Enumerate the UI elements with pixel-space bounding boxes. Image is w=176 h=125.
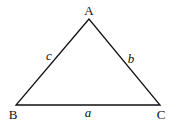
side-label-c: c [46,49,52,62]
vertex-label-a: A [84,4,93,17]
vertex-label-c: C [157,108,166,121]
triangle-abc [16,19,160,105]
side-label-a: a [85,106,92,119]
side-label-b: b [128,52,135,65]
vertex-label-b: B [9,108,18,121]
